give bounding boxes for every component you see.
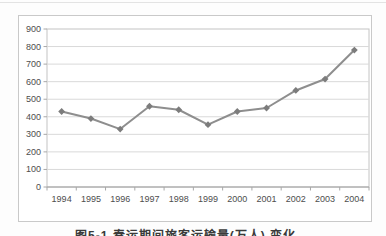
x-tick-label: 1994 (52, 194, 72, 204)
x-tick-label: 2003 (315, 194, 335, 204)
x-tick-label: 1996 (110, 194, 130, 204)
y-tick-label: 100 (26, 164, 41, 174)
page-top-rule (0, 2, 386, 3)
y-tick-label: 700 (26, 59, 41, 69)
y-tick-label: 300 (26, 129, 41, 139)
figure-caption: 图5-1 春运期间旅客运输量(万人) 变化 (75, 226, 375, 236)
plot-area (47, 29, 369, 187)
y-tick-label: 0 (36, 182, 41, 192)
line-chart-canvas: 0100200300400500600700800900199419951996… (19, 16, 371, 221)
chart-figure: 0100200300400500600700800900199419951996… (18, 15, 372, 222)
y-tick-label: 600 (26, 77, 41, 87)
y-tick-label: 200 (26, 147, 41, 157)
x-tick-label: 2001 (257, 194, 277, 204)
x-tick-label: 1999 (198, 194, 218, 204)
x-tick-label: 2004 (344, 194, 364, 204)
y-tick-label: 800 (26, 42, 41, 52)
y-tick-label: 400 (26, 112, 41, 122)
y-tick-label: 500 (26, 94, 41, 104)
x-tick-label: 2002 (286, 194, 306, 204)
x-tick-label: 1995 (81, 194, 101, 204)
x-tick-label: 2000 (227, 194, 247, 204)
page: { "page": { "background": "#fdfdfd", "to… (0, 0, 386, 236)
x-tick-label: 1998 (169, 194, 189, 204)
x-tick-label: 1997 (139, 194, 159, 204)
y-tick-label: 900 (26, 24, 41, 34)
